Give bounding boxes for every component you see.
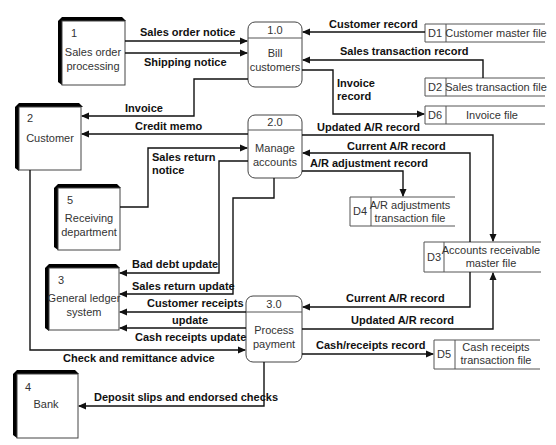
flow-customer-receipts-update: Customer receipts update bbox=[120, 297, 246, 326]
entity-number: 5 bbox=[67, 194, 73, 206]
entity-label: system bbox=[67, 306, 102, 318]
store-label: transaction file bbox=[461, 354, 532, 366]
store-d4-ar-adjustments-transaction-file[interactable]: D4 A/R adjustments transaction file bbox=[350, 197, 455, 226]
entity-label: department bbox=[61, 226, 117, 238]
flow-shipping-notice: Shipping notice bbox=[125, 53, 247, 68]
entity-number: 3 bbox=[58, 274, 64, 286]
entity-general-ledger-system[interactable]: 3 General ledger system bbox=[45, 264, 121, 331]
process-process-payment[interactable]: 3.0 Process payment bbox=[246, 296, 302, 362]
entity-customer[interactable]: 2 Customer bbox=[15, 103, 83, 171]
svg-text:Cash receipts update: Cash receipts update bbox=[135, 331, 246, 343]
process-number: 2.0 bbox=[267, 116, 282, 128]
svg-text:Customer record: Customer record bbox=[329, 18, 418, 30]
svg-text:Shipping notice: Shipping notice bbox=[144, 56, 227, 68]
svg-text:Bad debt update: Bad debt update bbox=[132, 258, 218, 270]
svg-text:Sales transaction record: Sales transaction record bbox=[340, 45, 468, 57]
svg-text:Credit memo: Credit memo bbox=[135, 120, 203, 132]
process-bill-customers[interactable]: 1.0 Bill customers bbox=[248, 22, 302, 87]
process-label: Manage bbox=[255, 142, 295, 154]
store-id: D6 bbox=[428, 109, 442, 121]
flow-bad-debt-update: Bad debt update bbox=[120, 161, 248, 273]
svg-text:notice: notice bbox=[152, 164, 184, 176]
svg-text:A/R adjustment record: A/R adjustment record bbox=[310, 157, 428, 169]
store-label: Accounts receivable bbox=[442, 244, 540, 256]
process-label: accounts bbox=[253, 156, 298, 168]
flow-sales-order-notice: Sales order notice bbox=[125, 26, 247, 41]
entity-label: Sales order bbox=[65, 46, 122, 58]
entity-receiving-department[interactable]: 5 Receiving department bbox=[54, 184, 121, 250]
store-label: Cash receipts bbox=[462, 341, 530, 353]
store-d5-cash-receipts-transaction-file[interactable]: D5 Cash receipts transaction file bbox=[434, 340, 540, 369]
flow-customer-record: Customer record bbox=[303, 18, 425, 32]
store-label: master file bbox=[466, 257, 517, 269]
process-label: payment bbox=[253, 338, 295, 350]
flow-current-ar-record-1: Current A/R record bbox=[303, 140, 470, 242]
flow-deposit-slips: Deposit slips and endorsed checks bbox=[79, 362, 278, 406]
entity-number: 1 bbox=[71, 27, 77, 39]
svg-text:Updated A/R record: Updated A/R record bbox=[351, 314, 454, 326]
store-id: D4 bbox=[353, 205, 367, 217]
flow-invoice-record: Invoice record bbox=[302, 70, 424, 114]
store-d3-accounts-receivable-master-file[interactable]: D3 Accounts receivable master file bbox=[424, 242, 541, 272]
store-id: D2 bbox=[428, 81, 442, 93]
svg-text:Sales return: Sales return bbox=[152, 151, 216, 163]
svg-text:Invoice: Invoice bbox=[125, 102, 163, 114]
svg-text:Updated A/R record: Updated A/R record bbox=[317, 121, 420, 133]
flow-credit-memo: Credit memo bbox=[82, 120, 248, 134]
svg-text:update: update bbox=[172, 314, 208, 326]
flow-cash-receipts-update: Cash receipts update bbox=[120, 328, 246, 343]
svg-text:Current A/R record: Current A/R record bbox=[347, 140, 446, 152]
entity-label: Receiving bbox=[65, 212, 113, 224]
svg-text:Cash/receipts record: Cash/receipts record bbox=[316, 339, 425, 351]
store-d2-sales-transaction-file[interactable]: D2 Sales transaction file bbox=[425, 78, 547, 96]
store-label: Invoice file bbox=[466, 109, 518, 121]
store-label: Customer master file bbox=[445, 27, 546, 39]
process-number: 1.0 bbox=[267, 24, 282, 36]
process-label: Bill bbox=[268, 47, 283, 59]
entity-number: 2 bbox=[27, 112, 33, 124]
entity-label: Bank bbox=[33, 398, 59, 410]
svg-text:Deposit slips and endorsed che: Deposit slips and endorsed checks bbox=[94, 391, 278, 403]
flow-ar-adjustment-record: A/R adjustment record bbox=[302, 157, 428, 196]
entity-label: General ledger bbox=[48, 292, 121, 304]
svg-text:record: record bbox=[337, 90, 371, 102]
flow-sales-transaction-record: Sales transaction record bbox=[303, 45, 483, 78]
svg-text:Sales return update: Sales return update bbox=[132, 280, 235, 292]
entity-bank[interactable]: 4 Bank bbox=[13, 370, 79, 438]
store-id: D1 bbox=[428, 27, 442, 39]
process-label: Process bbox=[254, 324, 294, 336]
flow-current-ar-record-2: Current A/R record bbox=[303, 272, 470, 307]
svg-text:Invoice: Invoice bbox=[337, 77, 375, 89]
store-label: Sales transaction file bbox=[445, 81, 547, 93]
process-number: 3.0 bbox=[266, 298, 281, 310]
flow-cash-receipts-record: Cash/receipts record bbox=[302, 339, 433, 354]
flow-sales-return-update: Sales return update bbox=[120, 178, 274, 294]
store-id: D3 bbox=[427, 251, 441, 263]
svg-text:Check and remittance advice: Check and remittance advice bbox=[63, 352, 215, 364]
process-manage-accounts[interactable]: 2.0 Manage accounts bbox=[248, 115, 302, 178]
entity-label: Customer bbox=[26, 132, 74, 144]
data-flow-diagram: 1 Sales order processing 2 Customer 5 Re… bbox=[0, 0, 556, 445]
svg-text:Current A/R record: Current A/R record bbox=[346, 292, 445, 304]
svg-text:Customer receipts: Customer receipts bbox=[147, 297, 244, 309]
store-d1-customer-master-file[interactable]: D1 Customer master file bbox=[425, 24, 547, 42]
entity-number: 4 bbox=[25, 381, 31, 393]
store-id: D5 bbox=[437, 348, 451, 360]
store-label: A/R adjustments bbox=[370, 199, 451, 211]
entity-label: processing bbox=[66, 60, 119, 72]
store-label: transaction file bbox=[375, 212, 446, 224]
flow-sales-return-notice: Sales return notice bbox=[120, 148, 247, 207]
svg-text:Sales order notice: Sales order notice bbox=[140, 26, 235, 38]
entity-sales-order-processing[interactable]: 1 Sales order processing bbox=[58, 17, 126, 85]
process-label: customers bbox=[250, 61, 301, 73]
store-d6-invoice-file[interactable]: D6 Invoice file bbox=[425, 106, 545, 124]
